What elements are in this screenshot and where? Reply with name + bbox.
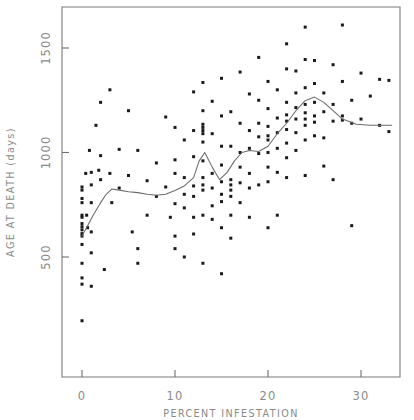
data-point (211, 172, 214, 175)
data-point (248, 172, 251, 175)
data-point (127, 109, 130, 112)
data-point (285, 156, 288, 159)
data-point (285, 142, 288, 145)
data-point (313, 59, 316, 62)
x-axis-title: PERCENT INFESTATION (163, 408, 299, 419)
data-point (211, 204, 214, 207)
data-point (229, 189, 232, 192)
data-point (341, 80, 344, 83)
data-point (257, 135, 260, 138)
data-point (164, 185, 167, 188)
data-point (88, 149, 91, 152)
data-point (201, 189, 204, 192)
data-point (81, 216, 84, 219)
data-point (220, 200, 223, 203)
data-point (164, 115, 167, 118)
data-point (332, 103, 335, 106)
x-tick-labels: 0102030 (78, 389, 370, 403)
scatter-plot-svg: 0102030 50010001500 AGE AT DEATH (days) … (0, 0, 414, 420)
data-point (248, 187, 251, 190)
data-point (201, 132, 204, 135)
data-point (304, 26, 307, 29)
data-point (110, 201, 113, 204)
data-point (257, 122, 260, 125)
data-point (81, 201, 84, 204)
data-point (267, 80, 270, 83)
y-tick-labels: 50010001500 (39, 31, 53, 269)
data-point (322, 91, 325, 94)
data-point (183, 193, 186, 196)
data-point (127, 174, 130, 177)
data-point (276, 117, 279, 120)
data-point (248, 147, 251, 150)
data-point (136, 247, 139, 250)
data-point (341, 24, 344, 27)
data-point (350, 224, 353, 227)
data-point (211, 132, 214, 135)
data-point (239, 166, 242, 169)
data-point (248, 129, 251, 132)
data-point (220, 145, 223, 148)
data-point (229, 237, 232, 240)
data-point (229, 214, 232, 217)
data-point (174, 202, 177, 205)
data-point (350, 99, 353, 102)
smooth-trend-line (82, 97, 392, 236)
data-point (285, 42, 288, 45)
data-point (304, 174, 307, 177)
data-point (84, 172, 87, 175)
data-point (201, 123, 204, 126)
y-tick-label-500: 500 (39, 244, 53, 269)
data-point (276, 171, 279, 174)
data-point (90, 183, 93, 186)
data-point (257, 152, 260, 155)
data-point (220, 180, 223, 183)
data-points (81, 24, 391, 323)
data-point (332, 63, 335, 66)
data-point (304, 111, 307, 114)
data-point (85, 214, 88, 217)
data-point (81, 185, 84, 188)
data-point (220, 77, 223, 80)
data-point (313, 121, 316, 124)
data-point (201, 129, 204, 132)
data-point (248, 216, 251, 219)
data-point (136, 149, 139, 152)
data-point (174, 172, 177, 175)
data-point (192, 233, 195, 236)
data-point (90, 251, 93, 254)
data-point (211, 187, 214, 190)
data-point (90, 201, 93, 204)
data-point (81, 319, 84, 322)
data-point (174, 247, 177, 250)
data-point (360, 118, 363, 121)
data-point (257, 56, 260, 59)
data-point (201, 126, 204, 129)
data-point (146, 179, 149, 182)
data-point (183, 138, 186, 141)
data-point (267, 125, 270, 128)
x-tick-label-30: 30 (353, 389, 370, 403)
data-point (192, 129, 195, 132)
data-point (192, 155, 195, 158)
data-point (369, 95, 372, 98)
data-point (220, 272, 223, 275)
x-tick-label-20: 20 (260, 389, 277, 403)
data-point (220, 114, 223, 117)
data-point (285, 128, 288, 131)
data-point (81, 228, 84, 231)
data-point (183, 206, 186, 209)
data-point (267, 138, 270, 141)
data-point (294, 91, 297, 94)
data-point (146, 214, 149, 217)
data-point (201, 262, 204, 265)
y-tick-label-1000: 1000 (39, 136, 53, 170)
data-point (239, 181, 242, 184)
data-point (99, 178, 102, 181)
data-point (192, 90, 195, 93)
data-point (276, 88, 279, 91)
data-point (294, 106, 297, 109)
data-point (360, 72, 363, 75)
data-point (94, 124, 97, 127)
data-point (239, 122, 242, 125)
